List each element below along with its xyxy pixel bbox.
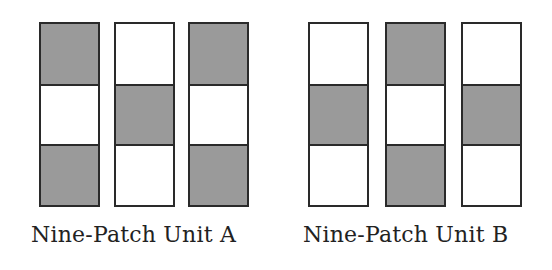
unit-a-column-1 xyxy=(39,22,100,207)
unit-a-column-3 xyxy=(188,22,249,207)
patch xyxy=(116,24,173,84)
patch xyxy=(310,24,367,84)
patch xyxy=(190,84,247,146)
unit-b-column-1 xyxy=(308,22,369,207)
unit-b-column-3 xyxy=(461,22,522,207)
patch xyxy=(41,24,98,84)
patch xyxy=(41,146,98,205)
patch xyxy=(116,146,173,205)
unit-b-column-2 xyxy=(385,22,446,207)
patch xyxy=(41,84,98,146)
patch xyxy=(463,84,520,146)
patch xyxy=(116,84,173,146)
unit-a-caption: Nine-Patch Unit A xyxy=(31,222,236,247)
patch xyxy=(463,146,520,205)
patch xyxy=(190,24,247,84)
patch xyxy=(463,24,520,84)
patch xyxy=(310,84,367,146)
patch xyxy=(190,146,247,205)
unit-a-column-2 xyxy=(114,22,175,207)
unit-b-caption: Nine-Patch Unit B xyxy=(303,222,508,247)
patch xyxy=(387,84,444,146)
patch xyxy=(387,146,444,205)
patch xyxy=(387,24,444,84)
patch xyxy=(310,146,367,205)
